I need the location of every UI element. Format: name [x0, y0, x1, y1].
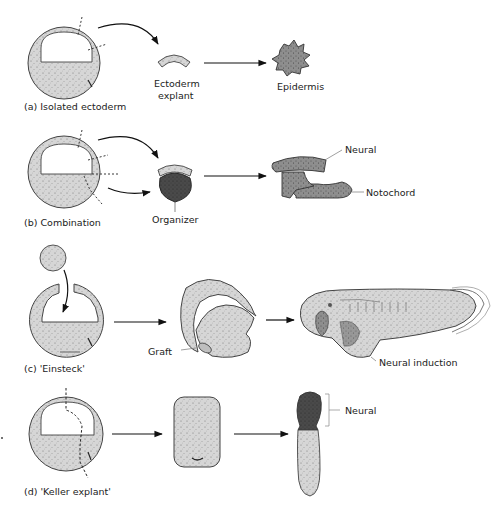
notochord-label: Notochord — [366, 187, 415, 198]
embryology-diagram: Ectoderm explant Epidermis (a) Isolated … — [0, 0, 494, 512]
embryo-open-sphere — [30, 284, 104, 357]
neural-label: Neural — [345, 405, 376, 416]
panel-b: Organizer Neural Notochord (b) Combinati… — [24, 130, 415, 228]
caption-b: (b) Combination — [24, 217, 101, 228]
keller-explant-shape — [174, 397, 220, 467]
graft-label: Graft — [148, 346, 172, 357]
organizer-label: Organizer — [152, 214, 199, 225]
embryo-sphere — [28, 130, 118, 208]
panel-a: Ectoderm explant Epidermis (a) Isolated … — [24, 17, 324, 112]
ectoderm-explant-shape — [158, 55, 190, 67]
panel-d: Neural (d) 'Keller explant' — [1, 388, 376, 497]
einsteck-embryo — [181, 279, 256, 357]
neural-leader — [325, 150, 342, 160]
organizer-graft-ball — [40, 245, 66, 271]
epidermis-shape — [272, 40, 310, 76]
induction-label: Neural induction — [379, 357, 458, 368]
tadpole-shape — [300, 287, 490, 358]
arrow-ectoderm — [98, 137, 158, 158]
caption-a: (a) Isolated ectoderm — [24, 101, 126, 112]
caption-d: (d) 'Keller explant' — [24, 486, 111, 497]
embryo-sphere — [28, 17, 107, 99]
neural-notochord-shape — [272, 157, 352, 198]
caption-c: (c) 'Einsteck' — [24, 363, 85, 374]
elongated-explant-shape — [297, 392, 321, 496]
explant-label-1: Ectoderm — [154, 78, 200, 89]
arrow-insert — [63, 270, 68, 312]
arrow-to-explant — [98, 24, 158, 44]
epidermis-label: Epidermis — [277, 81, 324, 92]
arrow-organizer — [108, 188, 150, 193]
induction-leader — [371, 357, 376, 361]
panel-c: Graft Neural induction (c) 'Einsteck' — [24, 245, 490, 374]
neural-bracket — [325, 394, 329, 426]
explant-label-2: explant — [158, 90, 194, 101]
organizer-shape — [159, 173, 191, 202]
embryo-sphere — [1, 388, 103, 478]
neural-label: Neural — [345, 144, 376, 155]
